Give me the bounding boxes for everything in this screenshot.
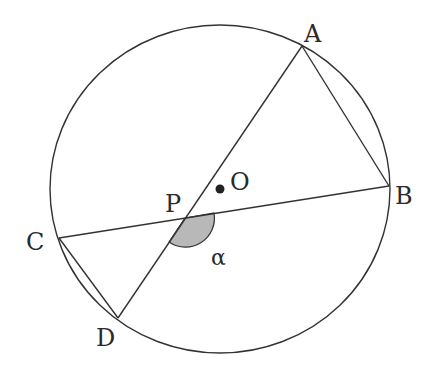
label-alpha: α (211, 245, 226, 270)
geometry-figure: A B C D P O α (0, 0, 435, 376)
diagram-canvas: A B C D P O α (0, 0, 435, 376)
center-point-O (216, 185, 225, 194)
label-B: B (395, 182, 413, 210)
chord-AD (118, 46, 302, 318)
label-C: C (26, 228, 44, 256)
angle-alpha-sector (169, 213, 214, 247)
segment-AB (302, 46, 389, 186)
label-A: A (303, 20, 322, 48)
label-D: D (96, 324, 115, 352)
label-P: P (165, 190, 181, 218)
segment-CD (59, 238, 118, 318)
label-O: O (230, 168, 250, 196)
chord-CB (59, 186, 389, 238)
